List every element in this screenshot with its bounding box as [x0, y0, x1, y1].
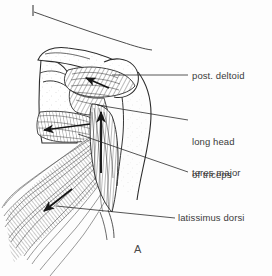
panel-letter: A	[134, 243, 142, 255]
triceps-long-head-muscle	[90, 104, 118, 240]
label-teres-major: teres major	[192, 167, 241, 178]
top-tick-leader	[33, 5, 152, 50]
label-long-head-of-triceps: long head of triceps	[192, 114, 235, 202]
label-long-head-line1: long head	[192, 136, 235, 147]
label-latissimus-dorsi: latissimus dorsi	[178, 212, 245, 223]
leader-latissimus-dorsi	[56, 206, 175, 218]
figure-panel: post. deltoid long head of triceps teres…	[0, 0, 272, 276]
label-post-deltoid: post. deltoid	[192, 70, 245, 81]
